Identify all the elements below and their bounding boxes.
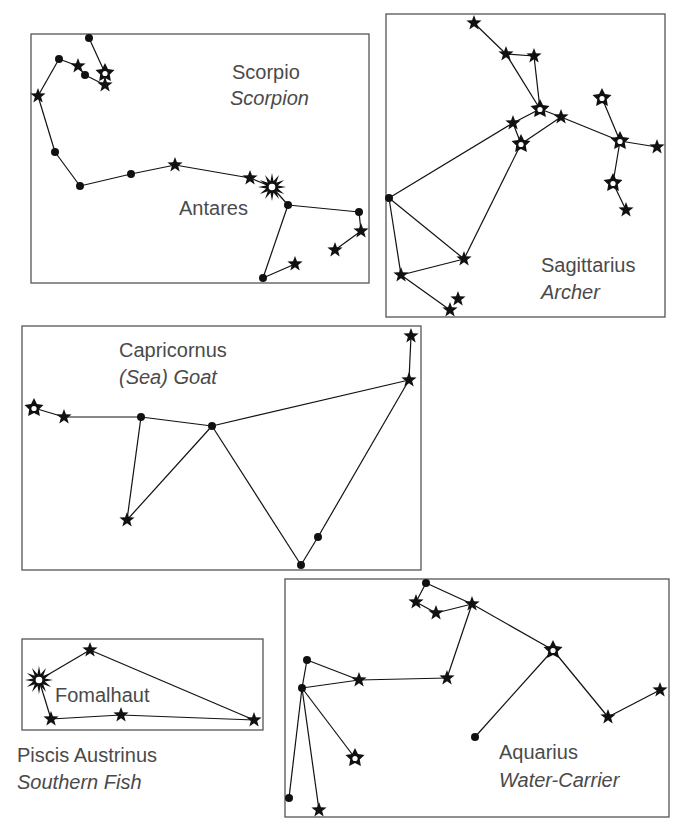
constellation-line bbox=[263, 205, 288, 278]
bright-star-hollow-icon bbox=[610, 131, 629, 149]
star-icon bbox=[464, 596, 479, 610]
brightest-star-burst-icon bbox=[25, 666, 53, 694]
star-icon bbox=[450, 291, 465, 305]
constellation-line bbox=[474, 23, 506, 54]
star-icon bbox=[649, 139, 664, 153]
constellation-line bbox=[389, 198, 464, 259]
constellation-line bbox=[121, 715, 254, 720]
faint-star-dot-icon bbox=[85, 34, 93, 42]
faint-star-dot-icon bbox=[355, 208, 363, 216]
constellation-line bbox=[553, 650, 608, 717]
star-icon bbox=[408, 594, 423, 608]
bright-star-hollow-icon bbox=[592, 88, 611, 106]
constellation-line bbox=[141, 417, 212, 426]
capricornus-lines bbox=[34, 336, 411, 565]
constellation-line bbox=[175, 165, 250, 178]
star-icon bbox=[442, 302, 457, 316]
sagittarius-name-label: Sagittarius bbox=[541, 255, 636, 275]
constellation-line bbox=[263, 264, 295, 278]
faint-star-dot-icon bbox=[76, 182, 84, 190]
constellation-line bbox=[475, 650, 553, 737]
brightest-star-burst-icon bbox=[258, 173, 286, 201]
capricornus-name-label: Capricornus bbox=[119, 340, 227, 360]
star-icon bbox=[82, 642, 97, 656]
star-icon bbox=[242, 170, 257, 184]
star-icon bbox=[56, 409, 71, 423]
faint-star-dot-icon bbox=[51, 148, 59, 156]
bright-star-hollow-icon bbox=[530, 99, 549, 117]
scorpio-stars bbox=[30, 34, 368, 282]
piscis-austrinus-common-name-label: Southern Fish bbox=[17, 772, 142, 792]
faint-star-dot-icon bbox=[81, 71, 89, 79]
star-icon bbox=[327, 242, 342, 256]
faint-star-dot-icon bbox=[385, 194, 393, 202]
constellation-line bbox=[127, 426, 212, 520]
star-icon bbox=[652, 682, 667, 696]
faint-star-dot-icon bbox=[137, 413, 145, 421]
constellation-line bbox=[302, 660, 307, 688]
antares-star-label: Antares bbox=[179, 198, 248, 218]
faint-star-dot-icon bbox=[422, 579, 430, 587]
constellation-line bbox=[301, 537, 318, 565]
scorpio-common-name-label: Scorpion bbox=[230, 88, 309, 108]
faint-star-dot-icon bbox=[55, 55, 63, 63]
faint-star-dot-icon bbox=[297, 561, 305, 569]
bright-star-hollow-icon bbox=[345, 748, 364, 766]
star-icon bbox=[30, 88, 45, 102]
star-icon bbox=[428, 605, 443, 619]
star-icon bbox=[167, 157, 182, 171]
sagittarius-common-name-label: Archer bbox=[541, 282, 600, 302]
faint-star-dot-icon bbox=[208, 422, 216, 430]
constellation-line bbox=[51, 715, 121, 719]
constellation-line bbox=[289, 688, 302, 798]
constellation-diagram bbox=[0, 0, 688, 835]
faint-star-dot-icon bbox=[298, 684, 306, 692]
faint-star-dot-icon bbox=[127, 170, 135, 178]
constellation-line bbox=[55, 152, 80, 186]
star-icon bbox=[246, 712, 261, 726]
constellation-line bbox=[38, 59, 59, 96]
constellation-line bbox=[302, 680, 359, 688]
constellation-line bbox=[464, 144, 521, 259]
star-icon bbox=[113, 707, 128, 721]
constellation-line bbox=[212, 426, 301, 565]
aquarius-name-label: Aquarius bbox=[499, 742, 578, 762]
faint-star-dot-icon bbox=[303, 656, 311, 664]
constellation-line bbox=[335, 231, 361, 250]
constellation-line bbox=[318, 380, 409, 537]
piscis-austrinus-name-label: Piscis Austrinus bbox=[17, 745, 157, 765]
constellation-line bbox=[608, 690, 660, 717]
faint-star-dot-icon bbox=[259, 274, 267, 282]
bright-star-hollow-icon bbox=[603, 173, 622, 191]
constellation-line bbox=[307, 660, 359, 680]
capricornus-stars bbox=[24, 328, 418, 569]
constellation-line bbox=[131, 165, 175, 174]
constellation-line bbox=[127, 417, 141, 520]
star-icon bbox=[70, 58, 85, 72]
constellation-line bbox=[447, 604, 472, 678]
bright-star-hollow-icon bbox=[543, 640, 562, 658]
star-icon bbox=[456, 251, 471, 265]
star-icon bbox=[351, 672, 366, 686]
capricornus-common-name-label: (Sea) Goat bbox=[119, 367, 217, 387]
constellation-line bbox=[401, 259, 464, 275]
constellation-line bbox=[80, 174, 131, 186]
faint-star-dot-icon bbox=[314, 533, 322, 541]
star-icon bbox=[505, 115, 520, 129]
faint-star-dot-icon bbox=[284, 201, 292, 209]
constellation-line bbox=[389, 123, 513, 198]
constellation-line bbox=[89, 38, 105, 73]
star-icon bbox=[466, 15, 481, 29]
constellation-line bbox=[389, 198, 401, 275]
constellation-line bbox=[426, 583, 472, 604]
constellation-line bbox=[38, 96, 55, 152]
star-icon bbox=[311, 802, 326, 816]
star-icon bbox=[618, 202, 633, 216]
fomalhaut-star-label: Fomalhaut bbox=[55, 685, 150, 705]
star-icon bbox=[439, 670, 454, 684]
aquarius-common-name-label: Water-Carrier bbox=[499, 770, 619, 790]
bright-star-hollow-icon bbox=[24, 398, 43, 416]
star-icon bbox=[401, 372, 416, 386]
faint-star-dot-icon bbox=[471, 733, 479, 741]
constellation-line bbox=[212, 380, 409, 426]
